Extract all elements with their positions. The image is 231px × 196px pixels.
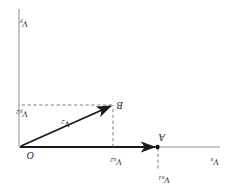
component-vx2-label: Vx2 [110, 156, 122, 166]
axis-y-label: Vy [20, 18, 28, 28]
rotated-figure-group: Vx Vy O A B Vx1 Vx2 Vy2 V2 [0, 0, 231, 196]
axis-x-label: Vx [211, 156, 219, 166]
point-a-label: A [159, 132, 165, 142]
point-b-label: B [117, 100, 123, 110]
vector-v2-label: V2 [61, 118, 70, 128]
point-a-marker [155, 145, 159, 149]
point-o-label: O [27, 150, 34, 160]
figure-canvas: Vx Vy O A B Vx1 Vx2 Vy2 V2 [0, 0, 231, 196]
vector-vx1-label: Vx1 [158, 174, 170, 184]
component-vy2-label: Vy2 [16, 108, 28, 118]
